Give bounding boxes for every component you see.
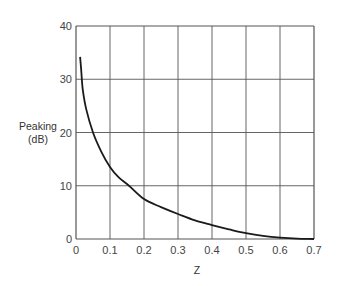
y-tick-label: 10 — [60, 180, 72, 192]
x-tick-label: 0 — [73, 244, 79, 256]
grid — [76, 26, 314, 239]
x-tick-label: 0.3 — [170, 244, 185, 256]
peaking-curve — [80, 57, 314, 239]
x-tick-label: 0.5 — [238, 244, 253, 256]
y-tick-labels: 010203040 — [60, 20, 72, 245]
y-axis-label-line2: (dB) — [28, 133, 48, 145]
peaking-vs-z-chart: 00.10.20.30.40.50.60.7 010203040 Peaking… — [0, 0, 338, 286]
x-tick-labels: 00.10.20.30.40.50.60.7 — [73, 244, 322, 256]
y-tick-label: 40 — [60, 20, 72, 32]
x-tick-label: 0.7 — [306, 244, 321, 256]
x-tick-label: 0.2 — [136, 244, 151, 256]
y-axis-label-line1: Peaking — [19, 120, 57, 132]
y-tick-label: 20 — [60, 127, 72, 139]
x-axis-label: Z — [194, 264, 201, 276]
x-tick-label: 0.6 — [272, 244, 287, 256]
y-tick-label: 0 — [66, 233, 72, 245]
x-tick-label: 0.1 — [102, 244, 117, 256]
y-tick-label: 30 — [60, 73, 72, 85]
x-tick-label: 0.4 — [204, 244, 219, 256]
